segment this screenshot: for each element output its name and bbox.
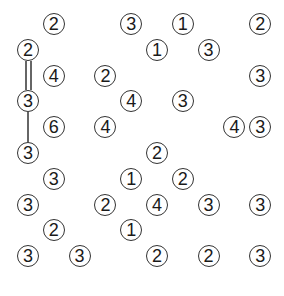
island[interactable]: 6 [43, 116, 65, 138]
island[interactable]: 4 [120, 90, 142, 112]
bridge[interactable] [27, 112, 29, 142]
island[interactable]: 3 [120, 13, 142, 35]
island[interactable]: 3 [249, 245, 271, 267]
island[interactable]: 2 [146, 142, 168, 164]
island[interactable]: 3 [249, 194, 271, 216]
island[interactable]: 3 [17, 245, 39, 267]
island[interactable]: 3 [249, 116, 271, 138]
island[interactable]: 3 [172, 90, 194, 112]
island[interactable]: 2 [249, 13, 271, 35]
island[interactable]: 2 [43, 219, 65, 241]
island[interactable]: 3 [69, 245, 91, 267]
island[interactable]: 2 [94, 65, 116, 87]
island[interactable]: 4 [43, 65, 65, 87]
island[interactable]: 3 [17, 194, 39, 216]
island[interactable]: 2 [172, 168, 194, 190]
island[interactable]: 2 [94, 194, 116, 216]
island[interactable]: 2 [198, 245, 220, 267]
island[interactable]: 3 [43, 168, 65, 190]
island[interactable]: 3 [198, 194, 220, 216]
island[interactable]: 1 [172, 13, 194, 35]
island[interactable]: 4 [146, 194, 168, 216]
island[interactable]: 1 [120, 219, 142, 241]
island[interactable]: 2 [43, 13, 65, 35]
bridge[interactable] [25, 61, 32, 91]
island[interactable]: 3 [198, 39, 220, 61]
island[interactable]: 2 [146, 245, 168, 267]
island[interactable]: 4 [223, 116, 245, 138]
island[interactable]: 1 [146, 39, 168, 61]
island[interactable]: 3 [17, 142, 39, 164]
island[interactable]: 1 [120, 168, 142, 190]
island[interactable]: 3 [17, 90, 39, 112]
island[interactable]: 4 [94, 116, 116, 138]
puzzle-board: 2312213423343644332312324332133223 [0, 0, 284, 296]
island[interactable]: 3 [249, 65, 271, 87]
island[interactable]: 2 [17, 39, 39, 61]
